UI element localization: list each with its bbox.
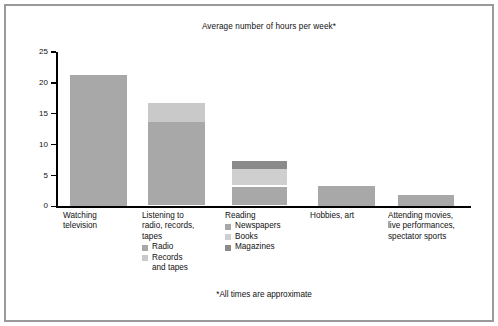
chart-footnote: *All times are approximate <box>0 290 498 299</box>
chart-figure: Average number of hours per week* 051015… <box>0 0 498 326</box>
y-tick-label: 5 <box>0 171 48 180</box>
bar-segment <box>70 75 127 207</box>
chart-legend: RadioRecords and tapes <box>142 242 218 273</box>
x-axis-line <box>56 206 471 208</box>
y-tick-mark <box>51 144 56 145</box>
category-block: Hobbies, art <box>310 211 386 221</box>
legend-swatch-icon <box>225 245 231 251</box>
y-tick-label: 20 <box>0 78 48 87</box>
legend-item: Magazines <box>225 242 309 252</box>
bar-segment <box>318 186 375 206</box>
legend-swatch-icon <box>142 255 148 261</box>
legend-label: Radio <box>152 242 173 252</box>
chart-legend: NewspapersBooksMagazines <box>225 221 309 252</box>
category-label: Watching television <box>63 211 135 232</box>
category-label: Reading <box>225 211 309 221</box>
y-tick-label: 15 <box>0 109 48 118</box>
category-label: Listening to radio, records, tapes <box>142 211 218 242</box>
category-label: Attending movies, live performances, spe… <box>388 211 474 242</box>
bar-segment <box>398 195 454 206</box>
category-label: Hobbies, art <box>310 211 386 221</box>
y-tick-mark <box>51 175 56 176</box>
category-block: Attending movies, live performances, spe… <box>388 211 474 242</box>
legend-item: Newspapers <box>225 221 309 231</box>
plot-area: 0510152025 Watching televisionListening … <box>0 0 498 326</box>
bar-segment <box>232 169 287 185</box>
legend-label: Newspapers <box>235 221 281 231</box>
legend-item: Books <box>225 232 309 242</box>
y-tick-label: 0 <box>0 201 48 210</box>
category-block: Listening to radio, records, tapesRadioR… <box>142 211 218 273</box>
legend-swatch-icon <box>142 245 148 251</box>
category-block: Watching television <box>63 211 135 232</box>
legend-swatch-icon <box>225 234 231 240</box>
y-axis-line <box>56 52 58 208</box>
y-tick-label: 10 <box>0 140 48 149</box>
y-tick-mark <box>51 206 56 207</box>
bar-segment <box>232 187 287 205</box>
bar-segment <box>148 103 205 122</box>
y-tick-mark <box>51 51 56 52</box>
legend-swatch-icon <box>225 224 231 230</box>
legend-label: Records and tapes <box>152 253 188 274</box>
legend-label: Books <box>235 232 258 242</box>
legend-item: Radio <box>142 242 218 252</box>
legend-label: Magazines <box>235 242 275 252</box>
y-tick-mark <box>51 113 56 114</box>
bar-segment <box>148 122 205 205</box>
category-block: ReadingNewspapersBooksMagazines <box>225 211 309 253</box>
y-tick-mark <box>51 82 56 83</box>
legend-item: Records and tapes <box>142 253 218 274</box>
bar-segment <box>232 161 287 168</box>
y-tick-label: 25 <box>0 47 48 56</box>
